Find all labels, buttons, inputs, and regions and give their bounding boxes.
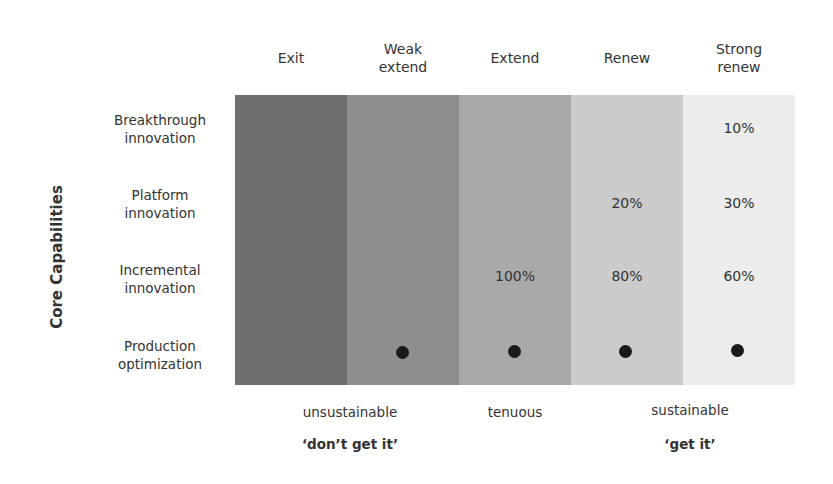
label-get-it: ‘get it’: [620, 436, 760, 452]
column-renew: [571, 95, 683, 385]
column-header-extend: Extend: [459, 30, 571, 86]
dot-marker-icon: [619, 345, 632, 358]
column-header-exit: Exit: [235, 30, 347, 86]
label-tenuous: tenuous: [460, 404, 570, 420]
cell-incremental-renew: 80%: [571, 268, 683, 284]
header-label: Weakextend: [379, 40, 428, 76]
row-label-breakthrough: Breakthroughinnovation: [95, 111, 225, 147]
header-label: Extend: [491, 49, 540, 67]
column-weak-extend: [347, 95, 459, 385]
cell-breakthrough-strong-renew: 10%: [683, 120, 795, 136]
row-label-incremental: Incrementalinnovation: [95, 261, 225, 297]
cell-platform-strong-renew: 30%: [683, 195, 795, 211]
label-unsustainable: unsustainable: [280, 404, 420, 420]
column-header-strong-renew: Strongrenew: [683, 30, 795, 86]
column-exit: [235, 95, 347, 385]
column-header-weak-extend: Weakextend: [347, 30, 459, 86]
dot-marker-icon: [508, 345, 521, 358]
cell-incremental-extend: 100%: [459, 268, 571, 284]
column-extend: [459, 95, 571, 385]
dot-marker-icon: [731, 344, 744, 357]
header-label: Exit: [278, 49, 305, 67]
y-axis-label: Core Capabilities: [48, 182, 66, 332]
header-label: Renew: [604, 49, 651, 67]
column-strong-renew: [683, 95, 795, 385]
label-sustainable: sustainable: [620, 402, 760, 418]
header-label: Strongrenew: [716, 40, 762, 76]
row-label-platform: Platforminnovation: [95, 186, 225, 222]
column-header-renew: Renew: [571, 30, 683, 86]
cell-incremental-strong-renew: 60%: [683, 268, 795, 284]
row-label-production: Productionoptimization: [95, 337, 225, 373]
label-dont-get-it: ‘don’t get it’: [280, 436, 420, 452]
cell-platform-renew: 20%: [571, 195, 683, 211]
dot-marker-icon: [396, 346, 409, 359]
